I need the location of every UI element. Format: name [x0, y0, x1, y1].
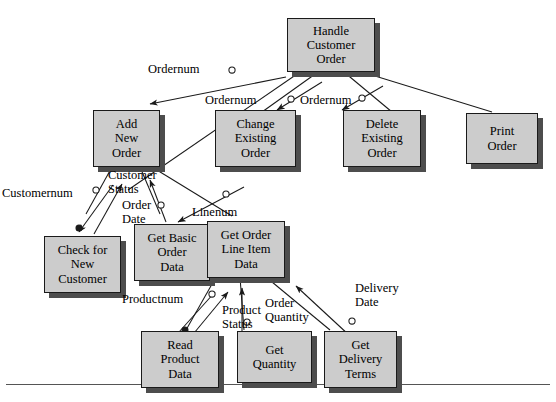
- module-line: Existing: [361, 131, 403, 145]
- couple-label-line: Ordernum: [300, 93, 351, 107]
- data-couple-circle-ordernum-change: [288, 96, 294, 102]
- module-line: New: [71, 257, 95, 271]
- couple-label-line: Customer: [108, 168, 157, 182]
- couple-label-line: Product: [222, 303, 261, 317]
- couple-label-productnum: Productnum: [122, 292, 183, 306]
- couple-label-line: Productnum: [122, 292, 183, 306]
- module-line: Customer: [58, 272, 107, 286]
- module-line: Existing: [235, 131, 277, 145]
- module-line: Order: [487, 139, 516, 153]
- module-line: Quantity: [253, 357, 297, 371]
- couple-label-ordernum-delete: Ordernum: [300, 93, 351, 107]
- couple-label-line: Delivery: [355, 281, 399, 295]
- module-get-order-line-item-data[interactable]: Get Order Line Item Data: [207, 221, 285, 278]
- module-line: Data: [160, 260, 184, 274]
- data-couple-circle-order-date: [158, 202, 164, 208]
- module-change-existing-order[interactable]: Change Existing Order: [215, 110, 296, 167]
- couple-label-order-quantity: Order Quantity: [265, 296, 309, 325]
- module-get-quantity[interactable]: Get Quantity: [237, 331, 312, 383]
- module-line: Get: [351, 338, 369, 352]
- couple-label-line: Ordernum: [148, 62, 199, 76]
- module-line: Get Basic: [148, 231, 197, 245]
- data-couple-circle-productnum: [209, 291, 215, 297]
- couple-label-ordernum-add: Ordernum: [148, 62, 199, 76]
- module-line: Check for: [58, 243, 108, 257]
- module-print-order[interactable]: Print Order: [466, 113, 538, 164]
- couple-label-line: Ordernum: [205, 93, 256, 107]
- control-couple-circle-customer-status: [76, 225, 82, 231]
- module-line: Add: [116, 117, 138, 131]
- data-couple-circle-customernum: [93, 187, 99, 193]
- data-couple-circle-ordernum-add: [229, 67, 235, 73]
- couple-label-ordernum-change: Ordernum: [205, 93, 256, 107]
- data-couple-circle-linenum: [223, 191, 229, 197]
- module-handle-customer-order[interactable]: Handle Customer Order: [287, 18, 375, 72]
- couple-label-line: Status: [222, 317, 261, 331]
- module-read-product-data[interactable]: Read Product Data: [141, 331, 219, 388]
- couple-label-line: Status: [108, 182, 157, 196]
- module-line: Line Item: [222, 242, 271, 256]
- module-line: Order: [316, 52, 345, 66]
- module-line: Get: [265, 343, 283, 357]
- couple-label-line: Date: [122, 212, 151, 226]
- module-line: Order: [241, 146, 270, 160]
- module-add-new-order[interactable]: Add New Order: [93, 110, 160, 167]
- module-line: Data: [168, 367, 192, 381]
- module-line: Change: [236, 117, 274, 131]
- couple-label-customer-status: Customer Status: [108, 168, 157, 197]
- module-line: Product: [161, 352, 200, 366]
- module-check-for-new-customer[interactable]: Check for New Customer: [44, 236, 121, 293]
- figure-bottom-rule: [6, 384, 550, 385]
- module-get-basic-order-data[interactable]: Get Basic Order Data: [134, 224, 210, 281]
- module-line: Delete: [366, 117, 399, 131]
- couple-label-delivery-date: Delivery Date: [355, 281, 399, 310]
- module-get-delivery-terms[interactable]: Get Delivery Terms: [324, 331, 397, 388]
- couple-label-line: Order: [265, 296, 309, 310]
- module-line: Handle: [313, 24, 349, 38]
- couple-label-linenum: Linenum: [192, 205, 237, 219]
- module-line: Print: [490, 124, 514, 138]
- module-line: Order: [157, 245, 186, 259]
- module-line: New: [115, 131, 139, 145]
- couple-label-customernum: Customernum: [2, 186, 73, 200]
- data-couple-circle-ordernum-delete: [359, 95, 365, 101]
- module-delete-existing-order[interactable]: Delete Existing Order: [343, 110, 421, 167]
- module-line: Read: [167, 338, 193, 352]
- couple-label-line: Customernum: [2, 186, 73, 200]
- data-couple-circle-delivery-date: [349, 318, 355, 324]
- module-line: Delivery: [339, 352, 383, 366]
- module-line: Customer: [307, 38, 356, 52]
- structure-chart: Handle Customer Order Add New Order Chan…: [0, 0, 556, 402]
- couple-label-line: Quantity: [265, 310, 309, 324]
- couple-label-product-status: Product Status: [222, 303, 261, 332]
- couple-label-line: Order: [122, 198, 151, 212]
- couple-label-line: Date: [355, 295, 399, 309]
- couple-label-order-date: Order Date: [122, 198, 151, 227]
- couple-label-line: Linenum: [192, 205, 237, 219]
- module-line: Data: [234, 257, 258, 271]
- module-line: Get Order: [221, 228, 271, 242]
- module-line: Terms: [345, 367, 376, 381]
- module-line: Order: [367, 146, 396, 160]
- module-line: Order: [112, 146, 141, 160]
